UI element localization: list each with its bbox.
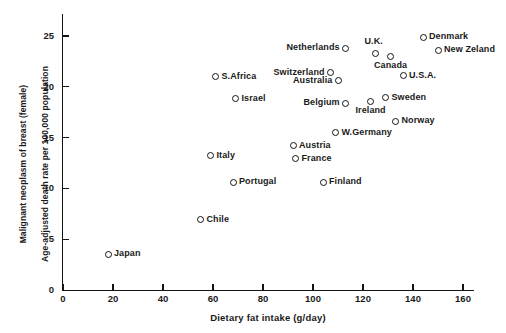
data-point-label: France	[302, 153, 332, 163]
data-point-label: W.Germany	[342, 127, 392, 137]
data-point-label: U.K.	[365, 36, 383, 46]
x-tick-60	[212, 284, 213, 290]
y-axis-title: Malignant neoplasm of breast (female) Ag…	[7, 31, 51, 297]
y-axis-line	[62, 14, 63, 291]
data-point-label: U.S.A.	[409, 70, 436, 80]
y-tick-15	[63, 137, 69, 138]
x-tick-0	[62, 284, 63, 290]
y-ticklabel-25: 25	[28, 30, 54, 41]
x-tick-40	[162, 284, 163, 290]
y-tick-25	[63, 35, 69, 36]
data-point-marker	[332, 129, 339, 136]
x-ticklabel-160: 160	[448, 293, 478, 304]
x-ticklabel-120: 120	[348, 293, 378, 304]
x-tick-100	[312, 284, 313, 290]
data-point-marker	[342, 45, 349, 52]
data-point-marker	[420, 34, 427, 41]
y-tick-5	[63, 239, 69, 240]
data-point-marker	[327, 69, 334, 76]
x-axis-title: Dietary fat intake (g/day)	[63, 312, 473, 323]
x-ticklabel-100: 100	[298, 293, 328, 304]
y-ticklabel-0: 0	[28, 284, 54, 295]
data-point-label: Finland	[329, 176, 362, 186]
data-point-marker	[335, 77, 342, 84]
y-axis-title-line1: Malignant neoplasm of breast (female)	[18, 85, 28, 244]
x-ticklabel-40: 40	[148, 293, 178, 304]
y-ticklabel-15: 15	[28, 132, 54, 143]
data-point-marker	[197, 216, 204, 223]
data-point-marker	[435, 47, 442, 54]
data-point-marker	[212, 73, 219, 80]
data-point-label: Netherlands	[287, 42, 340, 52]
data-point-marker	[230, 179, 237, 186]
y-tick-20	[63, 86, 69, 87]
data-point-label: Chile	[207, 214, 230, 224]
x-tick-20	[112, 284, 113, 290]
data-point-marker	[382, 94, 389, 101]
data-point-label: Italy	[217, 150, 236, 160]
data-point-marker	[392, 118, 399, 125]
data-point-label: Austria	[299, 140, 331, 150]
data-point-marker	[232, 95, 239, 102]
x-ticklabel-80: 80	[248, 293, 278, 304]
data-point-label: Belgium	[304, 97, 340, 107]
x-ticklabel-140: 140	[398, 293, 428, 304]
data-point-marker	[400, 72, 407, 79]
data-point-marker	[342, 100, 349, 107]
data-point-marker	[292, 155, 299, 162]
data-point-label: Norway	[402, 115, 435, 125]
data-point-marker	[372, 50, 379, 57]
data-point-marker	[105, 251, 112, 258]
y-ticklabel-20: 20	[28, 81, 54, 92]
x-tick-140	[412, 284, 413, 290]
x-ticklabel-60: 60	[198, 293, 228, 304]
data-point-label: Switzerland	[274, 67, 325, 77]
data-point-marker	[387, 53, 394, 60]
y-ticklabel-10: 10	[28, 182, 54, 193]
data-point-marker	[290, 142, 297, 149]
x-tick-160	[462, 284, 463, 290]
y-ticklabel-5: 5	[28, 233, 54, 244]
scatter-chart: Malignant neoplasm of breast (female) Ag…	[0, 0, 506, 333]
data-point-label: Israel	[242, 93, 266, 103]
data-point-label: Portugal	[239, 176, 276, 186]
data-point-label: Canada	[374, 60, 407, 70]
data-point-label: Sweden	[392, 92, 427, 102]
data-point-marker	[367, 98, 374, 105]
y-tick-10	[63, 188, 69, 189]
data-point-marker	[320, 179, 327, 186]
x-tick-120	[362, 284, 363, 290]
data-point-label: Denmark	[429, 31, 468, 41]
data-point-marker	[207, 152, 214, 159]
x-axis-line	[62, 290, 474, 291]
data-point-label: S.Africa	[222, 71, 257, 81]
data-point-label: New Zeland	[444, 44, 495, 54]
x-tick-80	[262, 284, 263, 290]
data-point-label: Japan	[114, 248, 141, 258]
data-point-label: Ireland	[356, 105, 386, 115]
x-ticklabel-20: 20	[98, 293, 128, 304]
